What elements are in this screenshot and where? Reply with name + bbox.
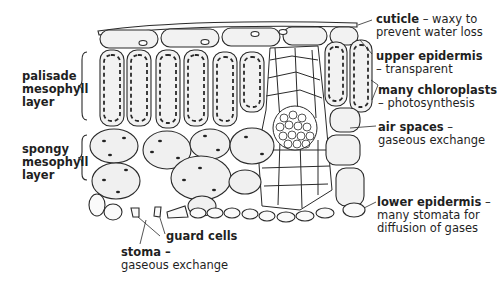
- desc: – transparent: [376, 63, 483, 76]
- desc: gaseous exchange: [121, 259, 228, 272]
- upper-epidermis: [100, 27, 358, 48]
- term: many chloroplasts: [378, 83, 497, 97]
- term: lower epidermis: [377, 195, 481, 209]
- desc: waxy to: [432, 12, 477, 26]
- term: cuticle: [376, 12, 419, 26]
- air-spaces-label: air spaces – gaseous exchange: [378, 121, 485, 147]
- desc: gaseous exchange: [378, 134, 485, 147]
- sep: –: [419, 12, 432, 26]
- guard-cells-label: guard cells: [166, 230, 237, 243]
- term: air spaces: [378, 120, 444, 134]
- lower-epidermis-label: lower epidermis – many stomata for diffu…: [377, 196, 491, 235]
- stoma-label: stoma – gaseous exchange: [121, 246, 228, 272]
- label-line: layer: [22, 169, 88, 182]
- desc: diffusion of gases: [377, 222, 491, 235]
- chloroplasts-label: many chloroplasts – photosynthesis: [378, 84, 497, 110]
- label-line: layer: [22, 96, 88, 109]
- sep: –: [481, 195, 490, 209]
- desc: prevent water loss: [376, 26, 483, 39]
- vascular-bundle: [258, 46, 332, 210]
- sep: –: [444, 120, 453, 134]
- spongy-cells: [90, 128, 274, 216]
- upper-epidermis-label: upper epidermis – transparent: [376, 50, 483, 76]
- lower-epidermis: [89, 194, 365, 222]
- spongy-mesophyll-label: spongy mesophyll layer: [22, 143, 88, 182]
- cuticle-label: cuticle – waxy to prevent water loss: [376, 13, 483, 39]
- desc: – photosynthesis: [378, 97, 497, 110]
- palisade-mesophyll-label: palisade mesophyll layer: [22, 70, 88, 109]
- term: upper epidermis: [376, 49, 483, 63]
